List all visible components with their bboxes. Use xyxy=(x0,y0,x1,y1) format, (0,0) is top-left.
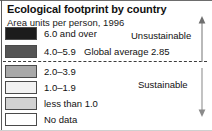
global-average-note: Global average 2.85 xyxy=(84,45,170,58)
legend-label-4-0-5-9: 4.0–5.9 xyxy=(44,45,76,58)
legend-label-6-and-over: 6.0 and over xyxy=(44,27,97,40)
double-headed-vertical-arrow-icon xyxy=(195,16,209,118)
band-label-unsustainable: Unsustainable xyxy=(131,30,191,41)
legend-top-rule xyxy=(0,0,212,1)
legend-left-rule xyxy=(1,0,2,131)
swatch-6-and-over xyxy=(5,27,37,40)
legend-label-no-data: No data xyxy=(44,113,77,126)
legend-label-1-0-1-9: 1.0–1.9 xyxy=(44,81,76,94)
swatch-1-0-1-9 xyxy=(5,81,37,94)
swatch-no-data xyxy=(5,113,37,126)
legend-title: Ecological footprint by country xyxy=(7,3,166,15)
legend-label-less-than-1-0: less than 1.0 xyxy=(44,97,98,110)
swatch-4-0-5-9 xyxy=(5,45,37,58)
ecological-footprint-legend: Ecological footprint by country Area uni… xyxy=(0,0,212,131)
sustainability-divider xyxy=(3,61,207,62)
band-label-sustainable: Sustainable xyxy=(138,79,188,90)
swatch-less-than-1-0 xyxy=(5,97,37,110)
legend-bottom-rule xyxy=(0,130,212,131)
swatch-2-0-3-9 xyxy=(5,65,37,78)
legend-label-2-0-3-9: 2.0–3.9 xyxy=(44,65,76,78)
